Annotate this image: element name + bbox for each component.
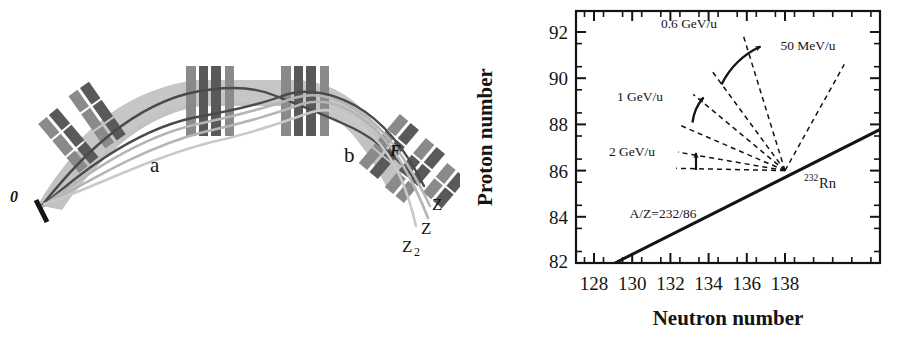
charge-state-label-2: Z	[421, 219, 431, 238]
energy-label-1-GeV: 1 GeV/u	[617, 89, 663, 104]
x-tick-label: 130	[618, 273, 647, 294]
x-tick-label: 136	[733, 273, 762, 294]
beamline-schematic-panel: 0 a b F Z Z Z 2	[0, 0, 460, 345]
x-tick-label: 128	[580, 273, 609, 294]
chart-panel: 128 130 132 134 136 138 92 90 88 86 84 8…	[460, 0, 898, 345]
magnet-block	[199, 66, 208, 136]
y-tick-labels: 92 90 88 86 84 82	[549, 22, 569, 272]
y-tick-label: 92	[549, 22, 568, 43]
nuclide-element-symbol: Rn	[819, 175, 837, 191]
charge-state-label-1: Z	[432, 195, 442, 214]
x-tick-label: 134	[694, 273, 723, 294]
x-tick-label: 138	[771, 273, 800, 294]
y-axis-title: Proton number	[473, 68, 497, 206]
x-tick-label: 132	[656, 273, 685, 294]
nuclide-mass-number: 232	[804, 173, 819, 183]
stage-a-label: a	[150, 153, 160, 177]
y-tick-label: 86	[549, 161, 568, 182]
magnet-block	[294, 66, 303, 136]
focal-plane-label: F	[389, 142, 401, 159]
ratio-label: A/Z=232/86	[630, 206, 697, 221]
y-tick-label: 84	[549, 207, 569, 228]
magnet-block	[211, 66, 221, 136]
x-tick-labels: 128 130 132 134 136 138	[580, 273, 800, 294]
figure-root: 0 a b F Z Z Z 2	[0, 0, 898, 345]
energy-label-50-MeV: 50 MeV/u	[780, 38, 835, 53]
y-tick-label: 82	[549, 251, 568, 272]
y-tick-label: 88	[549, 114, 568, 135]
stage-b-label: b	[344, 143, 355, 167]
energy-label-0p6-GeV: 0.6 GeV/u	[661, 16, 717, 31]
origin-label: 0	[10, 188, 18, 205]
charge-state-label-3: Z	[402, 237, 412, 256]
charge-state-subscript: 2	[414, 245, 420, 259]
x-axis-title: Neutron number	[653, 306, 804, 330]
y-tick-label: 90	[549, 68, 568, 89]
energy-label-2-GeV: 2 GeV/u	[609, 144, 655, 159]
